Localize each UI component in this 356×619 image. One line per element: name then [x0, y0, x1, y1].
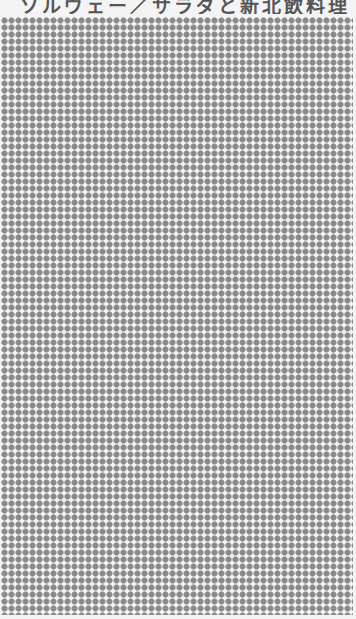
dot-pattern-area [1, 17, 353, 615]
page-title: ソルヴェー／サラダと新北飲料理 [20, 0, 350, 14]
title-strip: ソルヴェー／サラダと新北飲料理 [0, 0, 356, 14]
image-page: ソルヴェー／サラダと新北飲料理 [0, 0, 356, 619]
